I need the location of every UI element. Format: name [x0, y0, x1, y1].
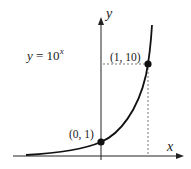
point-label-1-10: (1, 10) [110, 51, 141, 64]
exponential-graph: y x (0, 1) (1, 10) y = 10x [0, 0, 191, 169]
x-axis-arrow-icon [176, 153, 184, 159]
x-axis-label: x [166, 139, 174, 154]
y-axis-arrow-icon [98, 17, 104, 25]
equation-label: y = 10x [25, 46, 64, 63]
y-axis-label: y [104, 6, 113, 21]
point-label-0-1: (0, 1) [69, 128, 94, 141]
equation-text: y = 10x [25, 46, 64, 63]
point-1-10 [144, 60, 151, 67]
point-0-1 [97, 138, 104, 145]
